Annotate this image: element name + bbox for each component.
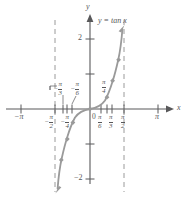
fraction-pi-over-6: π 6	[98, 114, 102, 130]
fraction-pi-over-2: π 2	[121, 114, 125, 130]
y-axis-name-label: y	[86, 3, 90, 11]
origin-label-0: 0	[92, 113, 96, 121]
y-axis-arrowhead	[87, 14, 94, 22]
minus-sign: −	[45, 119, 49, 126]
fraction-pi-over-3: π 3	[58, 81, 62, 97]
fraction-denominator: 2	[121, 123, 125, 130]
fraction-pi-over-3: π 3	[109, 114, 113, 130]
x-tick-label-neg-pi-over-6: − π 6	[71, 81, 79, 97]
x-tick-label-neg-pi: −π	[14, 113, 23, 121]
fraction-pi-over-4: π 4	[65, 114, 69, 130]
fraction-numerator: π	[65, 114, 69, 121]
fraction-denominator: 2	[49, 123, 53, 130]
y-tick-label-2: 2	[78, 34, 82, 42]
x-tick-label-pi-over-2: π 2	[121, 114, 125, 130]
y-tick-label-neg2: −2	[74, 174, 83, 182]
fraction-numerator: π	[121, 114, 125, 121]
x-axis-name-label: x	[177, 104, 181, 112]
x-tick-label-pi-over-3: π 3	[109, 114, 113, 130]
fraction-denominator: 6	[75, 90, 79, 97]
x-tick-label-pi: π	[155, 113, 159, 121]
x-tick-label-neg-pi-over-4: − π 4	[61, 114, 69, 130]
fraction-numerator: π	[49, 114, 53, 121]
minus-sign: −	[61, 119, 65, 126]
fraction-denominator: 3	[109, 123, 113, 130]
fraction-numerator: π	[75, 81, 79, 88]
fraction-pi-over-6: π 6	[75, 81, 79, 97]
x-tick-label-neg-pi-over-2: − π 2	[45, 114, 53, 130]
fraction-pi-over-4: π 4	[102, 79, 106, 95]
fraction-numerator: π	[102, 79, 106, 86]
curve-title-label: y = tan x	[98, 17, 127, 25]
fraction-denominator: 4	[102, 88, 106, 95]
graph-canvas	[0, 0, 188, 200]
curve-arrowhead-bottom	[55, 186, 61, 194]
minus-sign: −	[71, 86, 75, 93]
fraction-denominator: 6	[98, 123, 102, 130]
fraction-pi-over-2: π 2	[49, 114, 53, 130]
fraction-denominator: 4	[65, 123, 69, 130]
fraction-numerator: π	[58, 81, 62, 88]
x-tick-label-pi-over-4: π 4	[102, 79, 106, 95]
fraction-numerator: π	[98, 114, 102, 121]
fraction-denominator: 3	[58, 90, 62, 97]
fraction-numerator: π	[109, 114, 113, 121]
tangent-function-graph: y = tan x y x 2 −2 0 −π π − π 2 − π 4 π …	[0, 0, 188, 200]
x-axis-arrowhead	[166, 106, 174, 113]
x-tick-label-neg-pi-over-3: − π 3	[54, 81, 62, 97]
x-tick-label-pi-over-6: π 6	[98, 114, 102, 130]
